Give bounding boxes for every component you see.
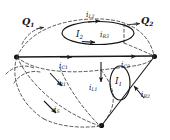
right-lower-arc [101, 70, 113, 126]
left-small-arc [6, 66, 34, 74]
rim-arrow-left [36, 27, 44, 29]
label-loop-I1: I1 [115, 77, 122, 86]
label-flux-Q2: Q2 [141, 16, 153, 26]
label-flux-Q1: Q1 [22, 17, 34, 27]
label-current-iR1: iR1 [57, 79, 66, 87]
vertex-markers [14, 54, 157, 128]
figure-canvas: Q1 Q2 iL2 I2 iR3 iC1 iC2 I1 iL1 iR1 iR2 … [0, 0, 170, 140]
label-current-iS: iS [54, 106, 60, 114]
loop-top-I2 [62, 22, 134, 45]
right-dashed-edge [124, 43, 154, 56]
label-current-iL2: iL2 [86, 11, 94, 19]
label-current-iL1: iL1 [89, 84, 97, 92]
loop-top-arrow [82, 42, 95, 43]
label-loop-I2: I2 [76, 30, 83, 39]
label-current-iC1: iC1 [59, 62, 68, 70]
loop-top-ellipse [62, 22, 134, 45]
label-current-iR3: iR3 [100, 31, 109, 39]
left-small-arc-2 [14, 71, 40, 83]
cone-rim-front [17, 56, 154, 72]
label-current-iR2: iR2 [141, 91, 150, 99]
rim-arrow-right [130, 24, 140, 25]
flux-bracket-left [22, 28, 40, 44]
label-current-iC2: iC2 [121, 61, 130, 69]
cone-left-flare [15, 57, 44, 119]
